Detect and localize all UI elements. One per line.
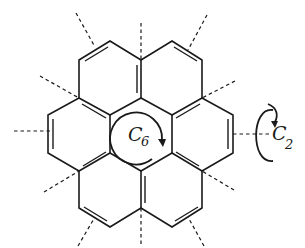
axis-line	[188, 217, 204, 246]
coronene-diagram: C 6 C 2	[0, 0, 305, 248]
axis-line	[202, 171, 234, 190]
axis-line	[76, 13, 95, 47]
axis-line	[188, 15, 207, 50]
axis-line	[202, 81, 235, 98]
axis-line	[78, 217, 95, 246]
axis-line	[44, 171, 79, 192]
c6-arrowhead-icon	[158, 139, 166, 147]
c2-arrow-top	[268, 104, 277, 122]
axis-line	[40, 76, 79, 98]
c2-subscript: 2	[284, 137, 293, 152]
c2-rotation-arrow	[256, 110, 273, 161]
c6-subscript: 6	[141, 134, 149, 149]
